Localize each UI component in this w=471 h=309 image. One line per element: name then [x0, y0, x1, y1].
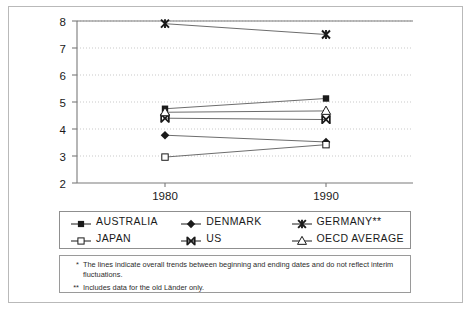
y-axis-tick-label: 2: [60, 178, 66, 190]
data-point: [323, 95, 329, 101]
legend-marker: [297, 236, 306, 244]
footnote-marker: *: [70, 260, 79, 280]
y-axis-tick-label: 4: [60, 124, 67, 136]
legend-label: JAPAN: [96, 233, 131, 244]
legend-label: DENMARK: [206, 216, 261, 227]
series-denmark: [161, 131, 331, 146]
footnote-single-asterisk: * The lines indicate overall trends betw…: [70, 260, 402, 280]
legend-label: OECD AVERAGE: [317, 233, 404, 244]
line-chart-svg: 234567819801990: [0, 0, 471, 200]
legend-item: US: [180, 233, 290, 245]
x-axis-tick-label: 1990: [313, 190, 339, 200]
legend-marker-open-square-icon: [70, 233, 92, 245]
series-line: [165, 98, 326, 108]
y-axis-tick-label: 5: [60, 97, 66, 109]
data-point: [321, 106, 330, 114]
legend-label: US: [206, 233, 221, 244]
y-axis-tick-label: 6: [60, 70, 66, 82]
series-us: [161, 114, 330, 124]
data-point: [161, 131, 170, 140]
x-axis-tick-label: 1980: [152, 190, 178, 200]
legend-item: AUSTRALIA: [70, 216, 180, 228]
legend-marker-star-icon: [291, 216, 313, 228]
legend-label: GERMANY**: [317, 216, 382, 227]
y-axis-tick-label: 7: [60, 43, 66, 55]
legend-marker: [187, 219, 195, 227]
legend-item: DENMARK: [180, 216, 290, 228]
footnote-marker: **: [70, 283, 79, 293]
legend-item: GERMANY**: [291, 216, 404, 228]
series-australia: [162, 95, 329, 112]
series-line: [165, 24, 326, 35]
data-point: [162, 154, 168, 160]
series-line: [165, 145, 326, 157]
legend-item: JAPAN: [70, 233, 180, 245]
series-germany: [161, 19, 330, 39]
series-line: [165, 135, 326, 142]
legend-marker-open-triangle-icon: [291, 233, 313, 245]
series-japan: [162, 141, 329, 160]
series-line: [165, 111, 326, 112]
legend-item: OECD AVERAGE: [291, 233, 404, 245]
footnote-text: Includes data for the old Länder only.: [83, 283, 402, 293]
footnote-text: The lines indicate overall trends betwee…: [83, 260, 402, 280]
chart-figure: 234567819801990 AUSTRALIADENMARKGERMANY*…: [0, 0, 471, 309]
series-line: [165, 118, 326, 119]
legend-marker-x-bar-icon: [180, 233, 202, 245]
chart-legend: AUSTRALIADENMARKGERMANY**JAPANUSOECD AVE…: [59, 211, 411, 249]
plot-area: 234567819801990: [0, 0, 471, 200]
legend-label: AUSTRALIA: [96, 216, 158, 227]
data-point: [323, 141, 329, 147]
y-axis-tick-label: 3: [60, 151, 66, 163]
legend-marker-filled-square-icon: [70, 216, 92, 228]
legend-marker: [78, 220, 84, 226]
footnote-double-asterisk: ** Includes data for the old Länder only…: [70, 283, 402, 293]
legend-marker-filled-diamond-icon: [180, 216, 202, 228]
y-axis-tick-label: 8: [60, 16, 66, 28]
legend-marker: [78, 237, 84, 243]
footnotes: * The lines indicate overall trends betw…: [59, 255, 411, 293]
